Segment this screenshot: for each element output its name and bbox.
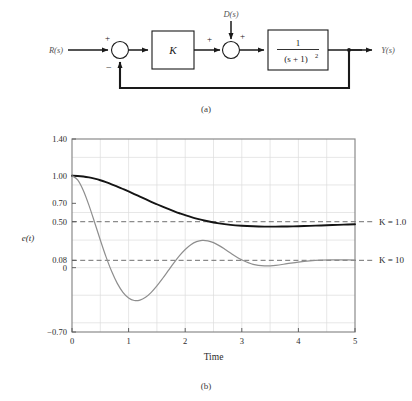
x-tick-label: 3: [240, 336, 244, 346]
response-plot: 1.401.000.700.500.080−0.70012345Timee(t)…: [0, 118, 412, 388]
plant-denominator-exponent: 2: [315, 52, 318, 59]
disturbance-signal-label: D(s): [222, 9, 238, 19]
y-axis-title: e(t): [22, 233, 35, 243]
input-signal-label: R(s): [48, 45, 63, 55]
subfigure-caption-a: (a): [0, 104, 412, 114]
x-axis-title: Time: [204, 352, 224, 362]
block-diagram: R(s) + − K + + D(s) 1 (s + 1) 2 Y(s: [0, 0, 412, 110]
sum1-minus-sign: −: [106, 62, 112, 73]
x-tick-label: 4: [296, 336, 301, 346]
figure-container: R(s) + − K + + D(s) 1 (s + 1) 2 Y(s: [0, 0, 412, 401]
series-legend-label-1: K = 10: [379, 255, 405, 265]
plant-numerator: 1: [296, 38, 301, 48]
gain-block-label: K: [168, 44, 177, 56]
y-tick-label: 0.50: [52, 217, 67, 227]
x-tick-label: 1: [126, 336, 130, 346]
y-tick-label: 1.00: [52, 171, 67, 181]
series-legend-label-0: K = 1.0: [379, 217, 407, 227]
sum1-plus-sign: +: [105, 33, 110, 43]
x-tick-label: 0: [70, 336, 74, 346]
summing-junction-2: [223, 42, 240, 59]
plant-block: [268, 30, 328, 70]
subfigure-caption-b: (b): [0, 381, 412, 391]
plant-denominator: (s + 1): [284, 54, 308, 64]
output-signal-label: Y(s): [381, 45, 395, 55]
y-tick-label: 0.70: [52, 198, 67, 208]
x-tick-label: 5: [353, 336, 357, 346]
summing-junction-1: [112, 42, 129, 59]
sum2-plus-left-sign: +: [207, 34, 212, 44]
y-tick-label: 1.40: [52, 134, 67, 144]
y-tick-label: −0.70: [47, 327, 67, 337]
sum2-plus-top-sign: +: [240, 31, 245, 41]
x-tick-label: 2: [183, 336, 187, 346]
y-tick-label: 0: [63, 263, 67, 273]
